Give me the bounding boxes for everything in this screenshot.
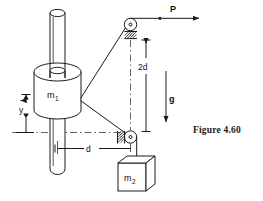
- label-dimension-2d: 2d: [138, 62, 148, 72]
- label-force-p: P: [170, 4, 176, 14]
- top-pulley-support-hatch: [125, 32, 138, 39]
- figure-container: m 1 P: [0, 0, 263, 201]
- gravity-arrow: g: [166, 71, 175, 122]
- label-mass-2: m: [124, 173, 132, 183]
- label-mass-2-subscript: 2: [132, 178, 136, 185]
- label-mass-1-subscript: 1: [55, 95, 59, 102]
- cylinder-mass-1: m 1: [34, 63, 81, 119]
- rope-attachment-dot: [158, 17, 161, 20]
- label-dimension-d: d: [86, 144, 91, 154]
- label-gravity: g: [169, 94, 175, 104]
- dimension-y: y: [16, 95, 34, 133]
- force-p-arrow: P: [162, 4, 200, 18]
- rope-horizontal: [131, 17, 162, 20]
- top-pulley: [124, 18, 137, 38]
- dimension-d: d: [55, 141, 131, 154]
- rope-lower: [81, 101, 129, 136]
- rope-upper: [81, 27, 127, 99]
- label-mass-1: m: [47, 90, 55, 100]
- block-mass-2: m 2: [118, 156, 155, 191]
- mechanics-diagram-svg: m 1 P: [0, 0, 263, 201]
- dimension-2d: 2d: [131, 40, 151, 132]
- figure-caption: Figure 4.60: [193, 125, 241, 135]
